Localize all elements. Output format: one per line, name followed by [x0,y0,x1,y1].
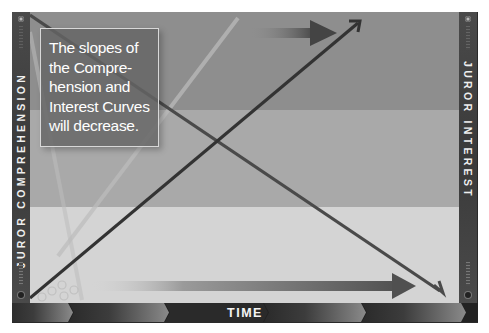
left-axis-bar: JUROR COMPREHENSION [12,12,30,303]
callout-line-1: The slopes of [49,38,158,58]
grille-decoration [466,262,470,286]
grille-decoration [466,26,470,50]
grille-decoration [19,26,23,50]
callout-line-5: will decrease. [49,116,158,136]
right-axis-label: JUROR INTEREST [462,61,474,199]
callout-line-4: Interest Curves [49,97,158,117]
left-axis-label: JUROR COMPREHENSION [15,72,27,268]
grille-decoration [19,262,23,286]
callout-box: The slopes of the Compre- hension and In… [40,28,159,147]
screw-icon [18,16,24,22]
callout-line-3: hension and [49,77,158,97]
lower-time-arrow [90,273,416,299]
time-axis-bar: TIME [12,303,478,322]
callout-line-2: the Compre- [49,58,158,78]
screw-icon [465,292,471,298]
screw-icon [465,16,471,22]
time-axis-label: TIME [12,304,478,322]
screw-icon [18,292,24,298]
right-axis-bar: JUROR INTEREST [459,12,477,303]
faint-circles-decoration [38,281,78,301]
upper-time-arrow [250,20,337,46]
